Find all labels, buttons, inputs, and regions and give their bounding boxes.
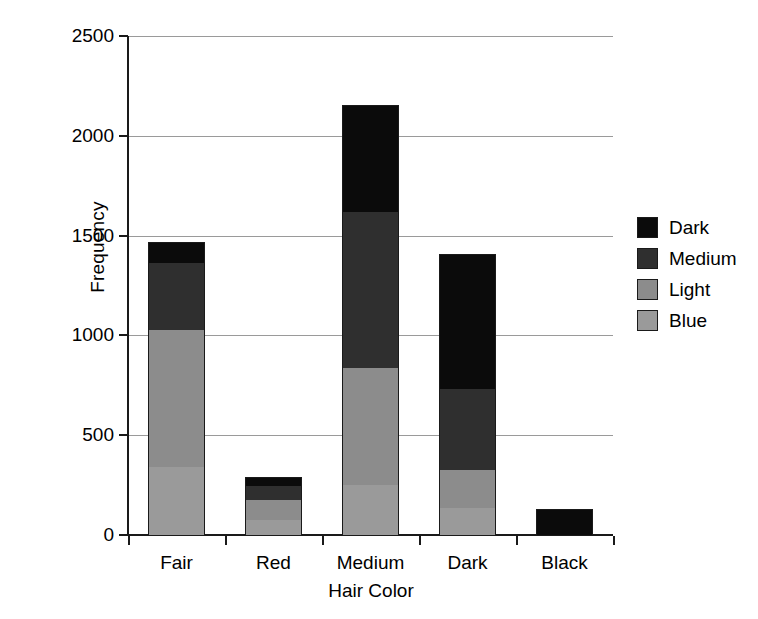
y-axis-tick (119, 35, 128, 37)
legend-label: Light (669, 280, 710, 299)
y-axis-tick (119, 434, 128, 436)
x-axis-tick (516, 536, 518, 545)
y-axis-tick (119, 135, 128, 137)
legend-item-dark: Dark (637, 212, 752, 243)
legend-swatch-light (637, 279, 658, 300)
x-axis-tick (613, 536, 615, 545)
x-axis-tick (225, 536, 227, 545)
legend: DarkMediumLightBlue (637, 212, 752, 336)
legend-label: Blue (669, 311, 707, 330)
stacked-bar-chart: Frequency 25002000150010005000 FairRedMe… (0, 0, 758, 619)
x-axis-title: Hair Color (328, 580, 414, 602)
x-axis-tick-label: Red (256, 552, 291, 574)
legend-swatch-dark (637, 217, 658, 238)
legend-label: Medium (669, 249, 737, 268)
x-axis-tick (128, 536, 130, 545)
legend-swatch-blue (637, 310, 658, 331)
legend-swatch-medium (637, 248, 658, 269)
x-axis-tick-label: Black (541, 552, 587, 574)
legend-item-light: Light (637, 274, 752, 305)
x-axis-tick (419, 536, 421, 545)
legend-label: Dark (669, 218, 709, 237)
x-axis-tick-label: Medium (337, 552, 405, 574)
x-axis-tick (322, 536, 324, 545)
y-axis-tick (119, 235, 128, 237)
y-axis-tick (119, 534, 128, 536)
x-axis-tick-label: Fair (160, 552, 193, 574)
y-axis-tick (119, 334, 128, 336)
legend-item-blue: Blue (637, 305, 752, 336)
x-axis-tick-label: Dark (447, 552, 487, 574)
legend-item-medium: Medium (637, 243, 752, 274)
